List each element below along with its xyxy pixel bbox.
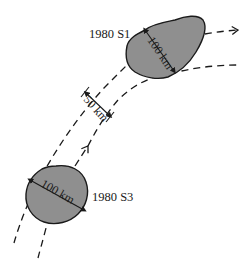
s3-name-label: 1980 S3	[92, 190, 133, 204]
s1-name-label: 1980 S1	[89, 27, 130, 41]
inner-orbit-lower	[38, 228, 46, 258]
outer-orbit-arrow	[205, 30, 238, 34]
inner-orbit-arrow	[75, 146, 88, 166]
orbit-diagram: 100 km 1980 S1 100 km 1980 S3 50 km	[0, 0, 248, 262]
